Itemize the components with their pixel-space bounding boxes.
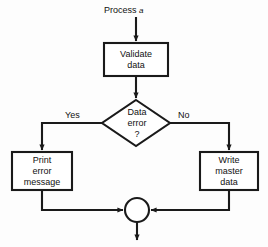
- node-print-error-message: [12, 152, 72, 190]
- entry-point-label: Process a: [104, 5, 143, 15]
- node-data-error-decision: [102, 100, 170, 146]
- edge-write-master-to-merge: [151, 190, 229, 210]
- node-write-master-data: [200, 152, 258, 190]
- flowchart-canvas: [0, 0, 268, 247]
- edge-label-yes: Yes: [65, 110, 80, 120]
- edge-no-to-write-master: [170, 123, 229, 150]
- node-merge-connector: [125, 198, 149, 222]
- entry-point-prefix: Process: [104, 5, 139, 15]
- entry-point-term: a: [139, 6, 143, 15]
- edge-yes-to-print-error: [42, 123, 102, 150]
- edge-print-error-to-merge: [42, 190, 123, 210]
- flowchart-figure: Process a Validate data Data error ? Pri…: [0, 0, 268, 247]
- node-validate-data: [104, 43, 168, 76]
- edge-label-no: No: [178, 110, 190, 120]
